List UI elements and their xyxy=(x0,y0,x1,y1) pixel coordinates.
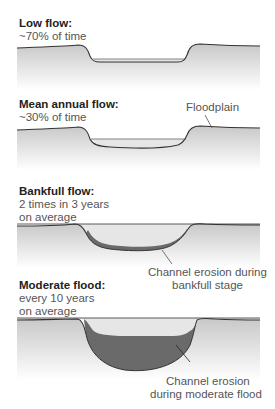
moderate-flood-title: Moderate flood: xyxy=(19,279,105,292)
bankfull-flow-frequency-line2: on average xyxy=(19,211,77,224)
bankfull-flow-title: Bankfull flow: xyxy=(19,185,94,198)
bankfull-flow-frequency-line1: 2 times in 3 years xyxy=(19,198,109,211)
bankfull-flow-cross-section xyxy=(17,224,260,268)
mean-annual-flow-frequency: ~30% of time xyxy=(19,111,86,124)
moderate-flood-frequency-line2: on average xyxy=(19,305,77,318)
mean-annual-flow-title: Mean annual flow: xyxy=(19,98,119,111)
low-flow-title: Low flow: xyxy=(19,17,72,30)
moderate-flood-frequency-line1: every 10 years xyxy=(19,292,94,305)
moderate-flood-cross-section xyxy=(17,318,260,380)
floodplain-label: Floodplain xyxy=(186,101,239,114)
low-flow-frequency: ~70% of time xyxy=(19,30,86,43)
moderate-flood-erosion-label-line2: during moderate flood xyxy=(150,388,262,401)
bankfull-erosion-label-line1: Channel erosion during xyxy=(148,266,267,279)
moderate-flood-erosion-label-line1: Channel erosion xyxy=(166,375,250,388)
bankfull-erosion-label-line2: bankfull stage xyxy=(172,279,243,292)
low-flow-cross-section xyxy=(17,44,260,90)
